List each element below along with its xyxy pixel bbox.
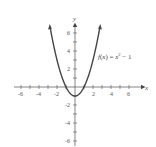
y-tick-label: 2 xyxy=(67,66,70,72)
curve-arrow-right xyxy=(98,24,102,30)
y-tick-label: -6 xyxy=(65,138,70,144)
curve-arrow-left xyxy=(48,24,52,30)
y-axis-label: y xyxy=(72,15,77,23)
x-tick-label: 4 xyxy=(110,91,113,97)
function-label: f(x) = x2 − 1 xyxy=(98,52,132,61)
y-tick-label: -2 xyxy=(65,102,70,108)
function-graph: -6 -4 -2 2 4 6 6 4 2 -2 -4 -6 x y f(x) =… xyxy=(0,0,156,147)
x-axis-label: x xyxy=(144,84,149,92)
axes xyxy=(14,25,143,146)
x-tick-label: -6 xyxy=(18,91,23,97)
x-tick-label: 6 xyxy=(127,91,130,97)
y-tick-label: 4 xyxy=(67,48,70,54)
y-tick-label: -4 xyxy=(65,120,70,126)
y-tick-label: 6 xyxy=(67,30,70,36)
x-tick-label: -2 xyxy=(54,91,59,97)
x-tick-label: -4 xyxy=(36,91,41,97)
x-tick-label: 2 xyxy=(92,91,95,97)
